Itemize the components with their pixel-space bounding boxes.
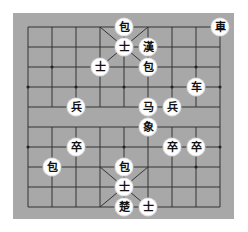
piece-卒[interactable]: 卒 bbox=[164, 139, 181, 156]
position-marker bbox=[51, 66, 54, 69]
piece-包[interactable]: 包 bbox=[140, 59, 157, 76]
position-marker bbox=[27, 146, 30, 149]
position-marker bbox=[75, 86, 78, 89]
position-marker bbox=[27, 86, 30, 89]
piece-士[interactable]: 士 bbox=[92, 59, 109, 76]
piece-楚[interactable]: 楚 bbox=[116, 199, 133, 216]
piece-兵[interactable]: 兵 bbox=[164, 99, 181, 116]
position-marker bbox=[195, 166, 198, 169]
piece-士[interactable]: 士 bbox=[140, 199, 157, 216]
piece-象[interactable]: 象 bbox=[140, 119, 157, 136]
position-marker bbox=[219, 86, 222, 89]
piece-包[interactable]: 包 bbox=[116, 159, 133, 176]
position-marker bbox=[123, 86, 126, 89]
position-marker bbox=[123, 146, 126, 149]
piece-卒[interactable]: 卒 bbox=[188, 139, 205, 156]
piece-士[interactable]: 士 bbox=[116, 179, 133, 196]
piece-漢[interactable]: 漢 bbox=[140, 39, 157, 56]
piece-包[interactable]: 包 bbox=[116, 19, 133, 36]
position-marker bbox=[219, 146, 222, 149]
piece-卒[interactable]: 卒 bbox=[68, 139, 85, 156]
position-marker bbox=[171, 86, 174, 89]
piece-包[interactable]: 包 bbox=[44, 159, 61, 176]
piece-士[interactable]: 士 bbox=[116, 39, 133, 56]
piece-兵[interactable]: 兵 bbox=[68, 99, 85, 116]
piece-車[interactable]: 車 bbox=[212, 19, 229, 36]
piece-车[interactable]: 车 bbox=[188, 79, 205, 96]
piece-马[interactable]: 马 bbox=[140, 99, 157, 116]
position-marker bbox=[195, 66, 198, 69]
